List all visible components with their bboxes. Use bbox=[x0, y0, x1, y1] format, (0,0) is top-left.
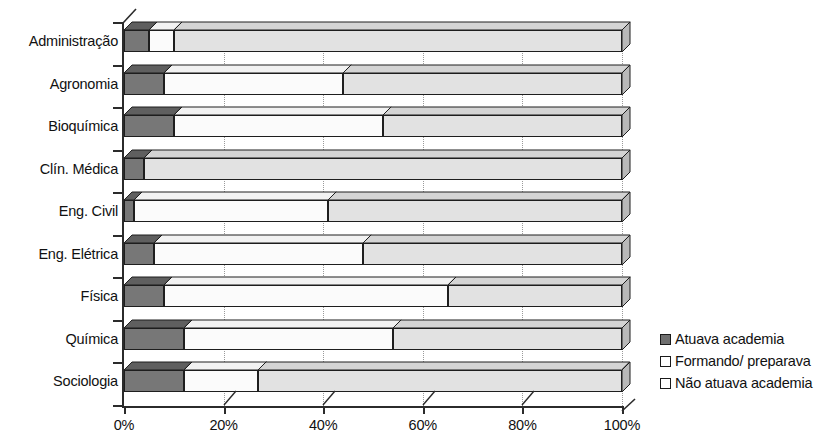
filled-dark-square-icon bbox=[660, 334, 671, 345]
legend-item[interactable]: Atuava academia bbox=[660, 328, 838, 350]
x-axis-tick-depth-icon bbox=[323, 390, 337, 406]
bar-segment bbox=[258, 370, 622, 392]
bar-right-face bbox=[622, 65, 632, 97]
legend-item[interactable]: Formando/ preparava bbox=[660, 350, 838, 372]
bar-segment-top-face bbox=[448, 277, 631, 286]
legend-item-label: Atuava academia bbox=[675, 331, 784, 347]
bar-segment bbox=[164, 285, 448, 307]
bar-segment bbox=[124, 30, 149, 52]
empty-square-icon bbox=[660, 356, 671, 367]
bar-segment bbox=[124, 115, 174, 137]
x-axis-tick bbox=[224, 406, 226, 414]
y-axis-tick-label: Clín. Médica bbox=[6, 161, 118, 177]
bar-segment-top-face bbox=[258, 362, 631, 371]
empty-square-icon bbox=[660, 378, 671, 389]
bar-segment-top-face bbox=[164, 277, 457, 286]
bar-segment-top-face bbox=[343, 65, 631, 74]
bar-right-face bbox=[622, 362, 632, 394]
bar-segment-top-face bbox=[184, 320, 402, 329]
x-axis-tick-label: 80% bbox=[508, 417, 536, 433]
bar-segment bbox=[363, 243, 622, 265]
x-axis-tick-label: 40% bbox=[309, 417, 337, 433]
bar-segment bbox=[124, 200, 134, 222]
bar-segment bbox=[134, 200, 328, 222]
bar-segment bbox=[124, 243, 154, 265]
legend-item[interactable]: Não atuava academia bbox=[660, 372, 838, 394]
y-axis-tick-label: Bioquímica bbox=[6, 118, 118, 134]
x-axis-tick-label: 20% bbox=[209, 417, 237, 433]
x-axis-tick bbox=[522, 406, 524, 414]
y-axis-tick-label: Química bbox=[6, 331, 118, 347]
bar-segment-top-face bbox=[174, 22, 631, 31]
x-axis-depth-flick-icon bbox=[622, 398, 636, 412]
bar-right-face bbox=[622, 150, 632, 182]
bar-segment bbox=[343, 73, 622, 95]
bar-segment bbox=[184, 370, 259, 392]
bar-segment-top-face bbox=[174, 107, 392, 116]
bar-segment bbox=[124, 328, 184, 350]
bar-segment bbox=[124, 285, 164, 307]
bar-segment-top-face bbox=[363, 235, 631, 244]
bar-segment-top-face bbox=[144, 150, 631, 159]
legend-item-label: Não atuava academia bbox=[675, 375, 812, 391]
bar-segment-top-face bbox=[134, 192, 337, 201]
bar-segment bbox=[184, 328, 393, 350]
bar-segment-top-face bbox=[124, 362, 193, 371]
bar-segment-top-face bbox=[154, 235, 372, 244]
bar-segment-top-face bbox=[328, 192, 631, 201]
x-axis-tick-label: 100% bbox=[604, 417, 640, 433]
bar-segment bbox=[154, 243, 363, 265]
x-axis-tick-label: 0% bbox=[114, 417, 135, 433]
y-axis-depth-flick-icon bbox=[122, 8, 138, 24]
x-axis-tick bbox=[323, 406, 325, 414]
y-axis-line bbox=[122, 22, 124, 408]
bar-segment-top-face bbox=[383, 107, 631, 116]
y-axis-tick-label: Física bbox=[6, 288, 118, 304]
legend-item-label: Formando/ preparava bbox=[675, 353, 811, 369]
bar-right-face bbox=[622, 107, 632, 139]
y-axis-tick-label: Sociologia bbox=[6, 373, 118, 389]
y-axis-tick-label: Agronomia bbox=[6, 76, 118, 92]
bar-right-face bbox=[622, 320, 632, 352]
y-axis-tick-label: Eng. Civil bbox=[6, 203, 118, 219]
bar-right-face bbox=[622, 22, 632, 54]
bar-segment-top-face bbox=[393, 320, 631, 329]
y-axis-tick-labels: AdministraçãoAgronomiaBioquímicaClín. Mé… bbox=[0, 0, 118, 448]
bar-segment bbox=[149, 30, 174, 52]
bar-segment bbox=[328, 200, 622, 222]
bar-segment-top-face bbox=[164, 65, 352, 74]
bar-right-face bbox=[622, 277, 632, 309]
bar-right-face bbox=[622, 192, 632, 224]
plot-area bbox=[124, 22, 622, 406]
x-axis-tick-depth-icon bbox=[224, 390, 238, 406]
x-axis-tick-depth-icon bbox=[423, 390, 437, 406]
y-axis-tick-label: Eng. Elétrica bbox=[6, 246, 118, 262]
bar-segment bbox=[124, 158, 144, 180]
stacked-bar-chart: AdministraçãoAgronomiaBioquímicaClín. Mé… bbox=[0, 0, 839, 448]
bar-segment-top-face bbox=[124, 320, 193, 329]
x-axis-tick-label: 60% bbox=[409, 417, 437, 433]
chart-legend: Atuava academiaFormando/ preparavaNão at… bbox=[660, 328, 838, 394]
bar-segment bbox=[124, 73, 164, 95]
x-axis-line bbox=[122, 406, 624, 408]
bar-segment bbox=[383, 115, 622, 137]
bar-segment bbox=[448, 285, 622, 307]
y-axis-tick-label: Administração bbox=[6, 33, 118, 49]
bar-segment bbox=[144, 158, 622, 180]
bar-segment bbox=[124, 370, 184, 392]
bar-segment bbox=[174, 30, 622, 52]
bar-segment bbox=[174, 115, 383, 137]
x-axis-tick bbox=[622, 406, 624, 414]
x-axis-tick bbox=[423, 406, 425, 414]
x-axis-tick bbox=[124, 406, 126, 414]
bar-segment-top-face bbox=[184, 362, 268, 371]
bar-segment bbox=[393, 328, 622, 350]
x-axis-tick-depth-icon bbox=[522, 390, 536, 406]
bar-segment bbox=[164, 73, 343, 95]
bar-right-face bbox=[622, 235, 632, 267]
